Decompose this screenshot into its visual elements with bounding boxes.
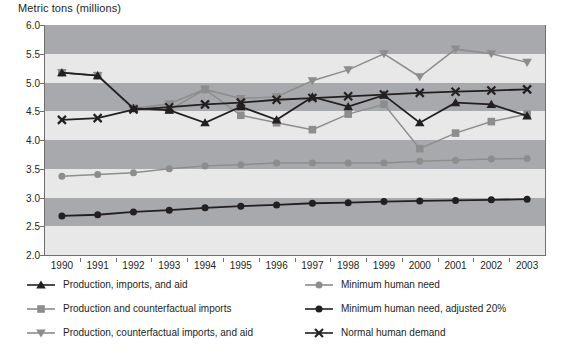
x-tick-label: 2002	[480, 260, 502, 271]
data-point-circle	[273, 160, 280, 167]
legend-item[interactable]: Production, imports, and aid	[26, 278, 188, 292]
data-point-circle-filled	[488, 196, 495, 203]
data-point-circle	[237, 161, 244, 168]
x-tick-label: 1991	[87, 260, 109, 271]
data-point-circle	[488, 155, 495, 162]
data-point-circle-filled	[345, 199, 352, 206]
legend-item[interactable]: Production and counterfactual imports	[26, 302, 231, 316]
data-point-circle-filled	[380, 198, 387, 205]
legend-label: Normal human demand	[341, 328, 446, 338]
data-point-circle	[452, 157, 459, 164]
triangle-down-icon	[26, 326, 56, 340]
data-point-square	[452, 129, 460, 137]
x-axis-ticks: 1990199119921993199419951996199719981999…	[44, 258, 546, 274]
data-point-square	[37, 305, 45, 313]
data-point-triangle-down	[379, 50, 389, 58]
triangle-up-icon	[26, 278, 56, 292]
y-tick-label: 5.0	[14, 77, 40, 88]
y-axis-line	[44, 25, 45, 255]
x-tick-label: 1997	[301, 260, 323, 271]
x-tick-label: 1996	[265, 260, 287, 271]
y-tick-label: 4.5	[14, 106, 40, 117]
y-tick-label: 2.5	[14, 221, 40, 232]
data-point-square	[380, 101, 388, 109]
data-point-circle	[309, 160, 316, 167]
y-tick-label: 2.0	[14, 250, 40, 261]
x-tick-label: 2001	[444, 260, 466, 271]
x-tick-label: 1995	[230, 260, 252, 271]
y-axis-ticks: 6.05.55.04.54.03.53.02.52.0	[12, 25, 40, 255]
x-tick-mark	[402, 258, 403, 262]
x-axis-line	[44, 255, 546, 256]
data-point-triangle-down	[415, 73, 425, 81]
x-tick-label: 1993	[158, 260, 180, 271]
y-tick-mark	[40, 25, 44, 26]
data-point-circle	[166, 165, 173, 172]
data-point-square	[237, 111, 245, 119]
data-point-circle-filled	[166, 207, 173, 214]
series-3	[58, 155, 530, 180]
legend-item[interactable]: Minimum human need	[304, 278, 440, 292]
x-tick-mark	[116, 258, 117, 262]
x-tick-mark	[366, 258, 367, 262]
series-0	[57, 68, 532, 126]
x-tick-mark	[509, 258, 510, 262]
y-tick-mark	[40, 140, 44, 141]
x-tick-mark	[151, 258, 152, 262]
x-tick-label: 1999	[373, 260, 395, 271]
x-tick-label: 2000	[409, 260, 431, 271]
data-point-circle-filled	[316, 306, 323, 313]
data-point-circle-filled	[452, 197, 459, 204]
legend-label: Production, imports, and aid	[63, 280, 188, 290]
legend-label: Production, counterfactual imports, and …	[63, 328, 253, 338]
y-tick-mark	[40, 54, 44, 55]
y-tick-mark	[40, 169, 44, 170]
data-point-square	[488, 118, 496, 126]
y-tick-mark	[40, 255, 44, 256]
y-tick-label: 5.5	[14, 48, 40, 59]
legend-item[interactable]: Minimum human need, adjusted 20%	[304, 302, 506, 316]
y-tick-mark	[40, 226, 44, 227]
data-point-circle-filled	[273, 201, 280, 208]
y-tick-label: 3.0	[14, 192, 40, 203]
data-point-circle	[202, 162, 209, 169]
data-point-triangle-down	[308, 77, 318, 85]
data-point-circle-filled	[309, 200, 316, 207]
x-tick-mark	[259, 258, 260, 262]
plot-right-border	[545, 25, 546, 255]
x-tick-mark	[330, 258, 331, 262]
legend-item[interactable]: Production, counterfactual imports, and …	[26, 326, 253, 340]
x-tick-label: 1998	[337, 260, 359, 271]
x-tick-label: 1994	[194, 260, 216, 271]
x-tick-mark	[187, 258, 188, 262]
legend-label: Minimum human need	[341, 280, 440, 290]
chart-figure: Metric tons (millions) 6.05.55.04.54.03.…	[0, 0, 563, 357]
y-tick-label: 3.5	[14, 163, 40, 174]
data-point-circle	[416, 158, 423, 165]
y-axis-title: Metric tons (millions)	[18, 2, 121, 14]
data-point-circle	[94, 171, 101, 178]
y-tick-mark	[40, 111, 44, 112]
data-point-circle-filled	[202, 204, 209, 211]
legend-label: Production and counterfactual imports	[63, 304, 231, 314]
chart-legend: Production, imports, and aidProduction a…	[26, 278, 556, 352]
data-point-circle-filled	[416, 197, 423, 204]
data-point-circle	[58, 173, 65, 180]
x-tick-mark	[80, 258, 81, 262]
circle-filled-icon	[304, 302, 334, 316]
x-tick-label: 2003	[516, 260, 538, 271]
data-point-circle-filled	[94, 211, 101, 218]
series-4	[58, 196, 530, 220]
legend-item[interactable]: Normal human demand	[304, 326, 446, 340]
data-point-square	[416, 145, 424, 153]
y-tick-label: 4.0	[14, 135, 40, 146]
data-point-circle-filled	[524, 196, 531, 203]
series-layer	[44, 25, 545, 255]
data-point-circle	[380, 160, 387, 167]
x-tick-label: 1990	[51, 260, 73, 271]
x-cross-icon	[304, 326, 334, 340]
y-tick-mark	[40, 198, 44, 199]
circle-icon	[304, 278, 334, 292]
data-point-triangle-down	[522, 59, 532, 67]
data-point-circle	[524, 155, 531, 162]
